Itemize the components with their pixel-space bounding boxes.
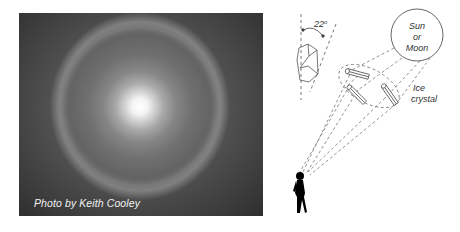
or-label: or <box>413 32 422 42</box>
photo-credit: Photo by Keith Cooley <box>34 197 140 209</box>
light-rays <box>300 48 430 175</box>
crystal-label: crystal <box>411 94 438 104</box>
ice-label: Ice <box>413 83 425 93</box>
ice-crystal-columns-icon <box>345 68 399 105</box>
moon-label: Moon <box>406 43 429 53</box>
sun-label: Sun <box>409 21 425 31</box>
angle-label: 22o <box>313 19 328 29</box>
halo-photo: Photo by Keith Cooley <box>19 13 263 216</box>
halo-cone-ellipse <box>332 55 406 116</box>
observer-silhouette-icon <box>293 172 307 213</box>
halo-diagram: 22o Sun or Moon <box>270 0 460 232</box>
sun-or-moon-icon: Sun or Moon <box>391 9 443 61</box>
